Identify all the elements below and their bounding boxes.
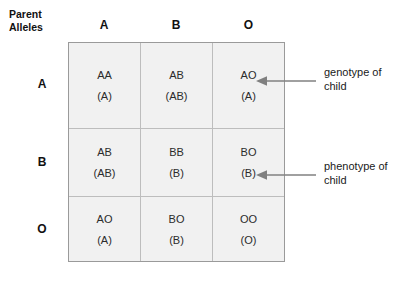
genotype-annotation-line1: genotype of bbox=[324, 65, 416, 79]
column-header-o: O bbox=[212, 17, 285, 33]
punnett-grid: AA (A) AB (AB) AO (A) AB (AB) BB (B) BO … bbox=[68, 42, 285, 262]
cell-genotype: AB bbox=[169, 69, 184, 81]
cell-phenotype: (B) bbox=[169, 167, 184, 179]
parent-alleles-label-line1: Parent bbox=[9, 8, 67, 21]
cell-phenotype: (A) bbox=[241, 90, 256, 102]
cell-phenotype: (B) bbox=[169, 234, 184, 246]
left-arrow-icon bbox=[256, 168, 318, 182]
grid-cell: OO (O) bbox=[213, 197, 284, 261]
cell-genotype: AO bbox=[241, 69, 257, 81]
grid-cell: AB (AB) bbox=[69, 129, 141, 197]
cell-genotype: AO bbox=[97, 213, 113, 225]
cell-phenotype: (AB) bbox=[166, 90, 188, 102]
cell-phenotype: (A) bbox=[97, 234, 112, 246]
cell-genotype: BB bbox=[169, 146, 184, 158]
cell-phenotype: (A) bbox=[97, 90, 112, 102]
phenotype-annotation-line2: child bbox=[324, 173, 416, 187]
genotype-annotation-text: genotype of child bbox=[324, 65, 416, 93]
cell-genotype: BO bbox=[241, 146, 257, 158]
genotype-annotation: genotype of child bbox=[256, 74, 416, 104]
cell-phenotype: (O) bbox=[241, 234, 257, 246]
column-header-b: B bbox=[140, 17, 212, 33]
phenotype-annotation-line1: phenotype of bbox=[324, 159, 416, 173]
genotype-annotation-line2: child bbox=[324, 79, 416, 93]
phenotype-annotation: phenotype of child bbox=[256, 168, 416, 198]
left-arrow-icon bbox=[256, 74, 318, 88]
parent-alleles-label-line2: Alleles bbox=[9, 21, 67, 34]
grid-cell: AB (AB) bbox=[141, 43, 213, 129]
row-header-b: B bbox=[22, 155, 62, 169]
cell-phenotype: (AB) bbox=[94, 167, 116, 179]
column-header-a: A bbox=[68, 17, 140, 33]
grid-cell: BB (B) bbox=[141, 129, 213, 197]
phenotype-annotation-text: phenotype of child bbox=[324, 159, 416, 187]
grid-cell: BO (B) bbox=[141, 197, 213, 261]
punnett-square-diagram: Parent Alleles A B O A B O AA (A) AB (AB… bbox=[0, 0, 416, 282]
row-header-o: O bbox=[22, 222, 62, 236]
grid-cell: AA (A) bbox=[69, 43, 141, 129]
grid-cell: AO (A) bbox=[69, 197, 141, 261]
cell-genotype: OO bbox=[240, 213, 257, 225]
cell-genotype: AB bbox=[97, 146, 112, 158]
cell-genotype: BO bbox=[169, 213, 185, 225]
row-header-a: A bbox=[22, 77, 62, 91]
cell-phenotype: (B) bbox=[241, 167, 256, 179]
parent-alleles-label: Parent Alleles bbox=[9, 8, 67, 34]
cell-genotype: AA bbox=[97, 69, 112, 81]
